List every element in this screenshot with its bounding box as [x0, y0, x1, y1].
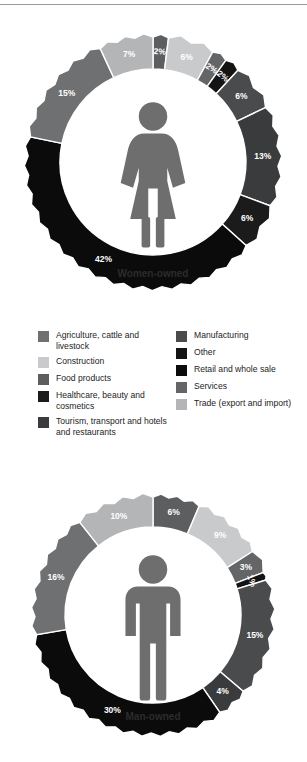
pie-segment-label-7: 42%: [95, 254, 112, 264]
man-owned-donut: 6%9%3%1%15%4%30%16%10% Man-owned: [0, 475, 307, 762]
man-figure-icon: [125, 555, 180, 700]
man-owned-center-label: Man-owned: [126, 711, 181, 722]
man-owned-chart-block: 6%9%3%1%15%4%30%16%10% Man-owned: [0, 475, 307, 762]
pie-segment-label-1: 9%: [214, 530, 227, 540]
pie-segment-label-0: 6%: [168, 507, 181, 517]
legend-label-food: Food products: [56, 373, 111, 384]
chart-legend: Agriculture, cattle and livestockConstru…: [0, 330, 307, 470]
legend-label-trade: Trade (export and import): [194, 398, 291, 409]
pie-segment-label-2: 3%: [240, 562, 253, 572]
legend-item-trade[interactable]: Trade (export and import): [176, 398, 304, 410]
legend-column-left: Agriculture, cattle and livestockConstru…: [38, 330, 168, 442]
pie-segment-label-7: 16%: [47, 572, 64, 582]
legend-swatch-retail: [176, 365, 187, 376]
woman-figure-icon: [121, 102, 186, 247]
legend-swatch-services: [176, 382, 187, 393]
legend-item-food[interactable]: Food products: [38, 373, 168, 385]
pie-segment-label-4: 15%: [246, 630, 263, 640]
pie-segment-label-8: 15%: [58, 88, 75, 98]
pie-segment-label-5: 4%: [217, 686, 230, 696]
women-owned-chart-block: 2%6%2%2%6%13%6%42%15%7% Women-owned: [0, 12, 307, 317]
legend-label-other: Other: [194, 347, 216, 358]
pie-segment-label-9: 7%: [123, 49, 136, 59]
legend-label-retail: Retail and whole sale: [194, 364, 276, 375]
legend-swatch-construction: [38, 357, 49, 368]
legend-item-retail[interactable]: Retail and whole sale: [176, 364, 304, 376]
legend-swatch-other: [176, 348, 187, 359]
legend-label-agriculture: Agriculture, cattle and livestock: [56, 330, 168, 351]
legend-item-other[interactable]: Other: [176, 347, 304, 359]
legend-swatch-tourism: [38, 417, 49, 428]
legend-swatch-food: [38, 374, 49, 385]
legend-item-services[interactable]: Services: [176, 381, 304, 393]
legend-label-construction: Construction: [56, 356, 104, 367]
women-owned-donut-svg: 2%6%2%2%6%13%6%42%15%7% Women-owned: [0, 12, 307, 317]
women-owned-center-label: Women-owned: [118, 268, 189, 279]
legend-label-healthcare: Healthcare, beauty and cosmetics: [56, 390, 168, 411]
pie-segment-label-5: 13%: [254, 151, 271, 161]
pie-segment-7[interactable]: [32, 522, 99, 634]
pie-segment-label-6: 6%: [241, 213, 254, 223]
top-divider-rule: [0, 4, 307, 5]
man-owned-donut-svg: 6%9%3%1%15%4%30%16%10% Man-owned: [0, 475, 307, 762]
legend-item-tourism[interactable]: Tourism, transport and hotels and restau…: [38, 416, 168, 437]
legend-swatch-agriculture: [38, 331, 49, 342]
legend-swatch-manufacturing: [176, 331, 187, 342]
legend-item-agriculture[interactable]: Agriculture, cattle and livestock: [38, 330, 168, 351]
pie-segment-label-6: 30%: [104, 705, 121, 715]
legend-label-manufacturing: Manufacturing: [194, 330, 248, 341]
legend-label-services: Services: [194, 381, 227, 392]
pie-segment-label-0: 2%: [153, 46, 166, 57]
legend-column-right: ManufacturingOtherRetail and whole saleS…: [176, 330, 304, 415]
legend-swatch-trade: [176, 399, 187, 410]
legend-item-manufacturing[interactable]: Manufacturing: [176, 330, 304, 342]
pie-segment-label-8: 10%: [110, 511, 127, 521]
legend-item-construction[interactable]: Construction: [38, 356, 168, 368]
legend-label-tourism: Tourism, transport and hotels and restau…: [56, 416, 168, 437]
legend-swatch-healthcare: [38, 391, 49, 402]
women-owned-donut: 2%6%2%2%6%13%6%42%15%7% Women-owned: [0, 12, 307, 317]
legend-item-healthcare[interactable]: Healthcare, beauty and cosmetics: [38, 390, 168, 411]
pie-segment-label-1: 6%: [181, 52, 194, 62]
pie-segment-label-4: 6%: [235, 91, 248, 101]
